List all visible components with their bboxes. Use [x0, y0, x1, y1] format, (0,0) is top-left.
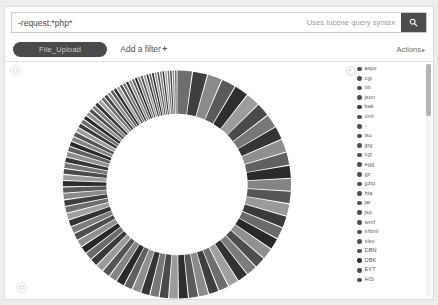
search-button[interactable] — [401, 13, 426, 32]
legend-item[interactable]: cgi — [357, 150, 406, 160]
legend-item-label: txt — [365, 85, 371, 91]
query-box[interactable]: Uses lucene query syntax — [11, 12, 427, 33]
legend-color-dot — [357, 220, 362, 225]
legend-color-dot — [357, 76, 362, 81]
legend-color-dot — [357, 239, 362, 244]
legend-item-label: bak — [365, 104, 374, 110]
legend-item-label: DBN — [365, 248, 377, 254]
donut-segment[interactable] — [175, 71, 177, 114]
legend-item[interactable]: jpg — [357, 141, 406, 151]
legend-color-dot — [357, 210, 362, 215]
lucene-hint: Uses lucene query syntax — [307, 18, 401, 27]
chart-legend: aspxcgitxtjsonbakxml-isojpgcgiegggzgziph… — [346, 64, 406, 299]
legend-item-label: egg — [365, 162, 375, 168]
visualization-panel: aspxcgitxtjsonbakxml-isojpgcgiegggzgziph… — [5, 62, 433, 299]
legend-color-dot — [357, 230, 362, 235]
legend-color-dot — [357, 172, 362, 177]
legend-item[interactable]: hta — [357, 189, 406, 199]
legend-color-dot — [357, 67, 362, 72]
search-icon — [409, 18, 418, 27]
legend-item-label: gz — [365, 172, 371, 178]
legend-item-label: DBK — [365, 258, 377, 264]
legend-item-label: - — [365, 124, 367, 130]
legend-item-label: gzip — [365, 181, 376, 187]
legend-color-dot — [357, 134, 362, 139]
legend-color-dot — [357, 249, 362, 254]
legend-color-dot — [357, 278, 362, 283]
legend-color-dot — [357, 153, 362, 158]
legend-item-label: json — [365, 95, 376, 101]
legend-item-label: hta — [365, 191, 373, 197]
filter-row: File_Upload Add a filter+ Actions▸ — [5, 37, 433, 61]
legend-item[interactable]: egg — [357, 160, 406, 170]
search-input[interactable] — [12, 13, 307, 32]
legend-item-label: xml — [365, 114, 374, 120]
legend-color-dot — [357, 86, 362, 91]
legend-item[interactable]: bak — [357, 102, 406, 112]
actions-menu[interactable]: Actions▸ — [396, 45, 425, 54]
legend-item[interactable]: iso — [357, 131, 406, 141]
legend-item[interactable]: json — [357, 93, 406, 103]
donut-chart-svg — [57, 68, 297, 299]
legend-item-label: wmf — [365, 220, 376, 226]
donut-segment[interactable] — [248, 179, 291, 191]
legend-item[interactable]: xhtml — [357, 227, 406, 237]
scrollbar-thumb[interactable] — [426, 64, 431, 116]
legend-item-label: HIS — [365, 277, 375, 283]
legend-item-label: xhtml — [365, 229, 379, 235]
legend-item-label: cgi — [365, 76, 372, 82]
legend-color-dot — [357, 268, 362, 273]
legend-item-label: aspx — [365, 66, 377, 72]
legend-item[interactable]: jsp — [357, 208, 406, 218]
plus-icon: + — [162, 44, 167, 54]
legend-color-dot — [357, 162, 362, 167]
query-row: Uses lucene query syntax — [5, 7, 433, 37]
legend-list: aspxcgitxtjsonbakxml-isojpgcgiegggzgziph… — [357, 64, 406, 285]
legend-item-label: xlsx — [365, 239, 375, 245]
kibana-discover-app: Uses lucene query syntax File_Upload Add… — [0, 0, 438, 305]
legend-color-dot — [357, 182, 362, 187]
panel-options-icon-bottom[interactable] — [16, 282, 27, 293]
legend-color-dot — [357, 124, 362, 129]
legend-color-dot — [357, 95, 362, 100]
chevron-right-icon: ▸ — [422, 47, 425, 53]
legend-color-dot — [357, 143, 362, 148]
legend-color-dot — [357, 105, 362, 110]
legend-item[interactable]: cgi — [357, 74, 406, 84]
legend-color-dot — [357, 115, 362, 120]
legend-item[interactable]: xlsx — [357, 237, 406, 247]
legend-item[interactable]: DBN — [357, 246, 406, 256]
content-card: Uses lucene query syntax File_Upload Add… — [4, 6, 434, 300]
legend-item-label: iso — [365, 133, 372, 139]
legend-item[interactable]: EVT — [357, 265, 406, 275]
legend-collapse-icon[interactable] — [346, 66, 356, 76]
legend-color-dot — [357, 191, 362, 196]
legend-item[interactable]: DBK — [357, 256, 406, 266]
legend-color-dot — [357, 201, 362, 206]
legend-item[interactable]: - — [357, 122, 406, 132]
legend-item[interactable]: gz — [357, 170, 406, 180]
panel-options-icon-top[interactable] — [10, 65, 21, 76]
legend-item[interactable]: aspx — [357, 64, 406, 74]
legend-item-label: cgi — [365, 152, 372, 158]
legend-item[interactable]: xml — [357, 112, 406, 122]
add-filter-label: Add a filter — [120, 44, 161, 54]
legend-item[interactable]: gzip — [357, 179, 406, 189]
legend-item[interactable]: HIS — [357, 275, 406, 285]
add-filter-button[interactable]: Add a filter+ — [120, 44, 167, 54]
actions-label: Actions — [396, 45, 421, 54]
legend-item-label: jsp — [365, 210, 372, 216]
legend-item[interactable]: jar — [357, 198, 406, 208]
legend-item[interactable]: wmf — [357, 218, 406, 228]
donut-chart[interactable] — [57, 68, 297, 299]
legend-item-label: EVT — [365, 267, 376, 273]
donut-segment[interactable] — [63, 181, 106, 186]
filter-pill-file-upload[interactable]: File_Upload — [13, 42, 107, 57]
legend-color-dot — [357, 258, 362, 263]
legend-item[interactable]: txt — [357, 83, 406, 93]
legend-item-label: jpg — [365, 143, 373, 149]
scrollbar-track[interactable] — [426, 64, 431, 297]
legend-item-label: jar — [365, 200, 372, 206]
